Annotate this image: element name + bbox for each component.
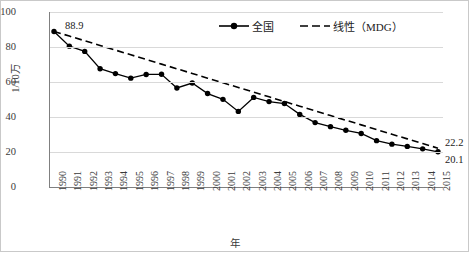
x-tick-label: 1992 (89, 171, 99, 191)
x-tick-label: 2013 (411, 171, 421, 191)
data-point-marker (343, 128, 348, 133)
gridline (49, 117, 443, 118)
data-point-marker (405, 144, 410, 149)
y-tick-label: 100 (0, 7, 16, 18)
data-point-marker (159, 72, 164, 77)
x-tick-label: 2012 (396, 171, 406, 191)
y-tick-label: 80 (0, 42, 16, 53)
x-tick-label: 2014 (427, 171, 437, 191)
x-tick-label: 2004 (273, 171, 283, 191)
x-tick-label: 2006 (304, 171, 314, 191)
data-point-marker (97, 66, 102, 71)
y-tick-label: 0 (0, 182, 16, 193)
dashed-line-icon (300, 21, 330, 31)
mdg-end-label: 22.2 (445, 138, 463, 149)
data-point-marker (374, 138, 379, 143)
y-tick-label: 40 (0, 112, 16, 123)
x-tick-label: 2003 (258, 171, 268, 191)
data-point-marker (389, 141, 394, 146)
data-point-marker (174, 85, 179, 90)
x-tick-label: 2002 (242, 171, 252, 191)
data-point-marker (266, 99, 271, 104)
data-point-marker (220, 97, 225, 102)
gridline (49, 82, 443, 83)
x-tick-label: 1993 (104, 171, 114, 191)
x-tick-label: 1994 (119, 171, 129, 191)
data-point-marker (328, 124, 333, 129)
x-tick-label: 2005 (288, 171, 298, 191)
x-tick-label: 2011 (381, 171, 391, 191)
x-tick-label: 1998 (181, 171, 191, 191)
start-value-label: 88.9 (65, 21, 83, 32)
data-point-marker (359, 131, 364, 136)
data-point-marker (82, 49, 87, 54)
plot-area (49, 12, 443, 187)
data-point-marker (128, 75, 133, 80)
x-tick-label: 2007 (319, 171, 329, 191)
x-tick-label: 2009 (350, 171, 360, 191)
x-tick-label: 2010 (365, 171, 375, 191)
legend-item-national[interactable]: 全国 (219, 18, 274, 34)
x-tick-label: 2000 (212, 171, 222, 191)
data-point-marker (143, 72, 148, 77)
x-tick-label: 1990 (58, 171, 68, 191)
solid-line-marker-icon (219, 21, 249, 31)
gridline (49, 12, 443, 13)
x-tick-label: 1996 (150, 171, 160, 191)
data-point-marker (420, 146, 425, 151)
chart-container: 1/10万 020406080100 199019911992199319941… (0, 0, 469, 252)
y-tick-label: 60 (0, 77, 16, 88)
x-tick-label: 1995 (135, 171, 145, 191)
x-tick-label: 1991 (73, 171, 83, 191)
mdg-trend-line (54, 31, 438, 148)
legend-label-national: 全国 (252, 18, 274, 34)
legend-label-mdg: 线性（MDG） (333, 18, 403, 34)
data-point-marker (282, 101, 287, 106)
x-tick-label: 2015 (442, 171, 452, 191)
x-axis-title: 年 (1, 235, 468, 250)
x-tick-label: 2008 (334, 171, 344, 191)
x-tick-label: 1999 (196, 171, 206, 191)
y-axis-line (49, 12, 50, 187)
gridline (49, 152, 443, 153)
x-tick-label: 2001 (227, 171, 237, 191)
data-point-marker (236, 109, 241, 114)
legend-item-mdg[interactable]: 线性（MDG） (300, 18, 403, 34)
national-end-label: 20.1 (445, 155, 463, 166)
data-series-svg (49, 12, 443, 187)
data-point-marker (251, 95, 256, 100)
gridline (49, 47, 443, 48)
data-point-marker (51, 29, 56, 34)
chart-legend: 全国 线性（MDG） (219, 18, 403, 34)
data-point-marker (312, 120, 317, 125)
x-tick-label: 1997 (166, 171, 176, 191)
data-point-marker (113, 71, 118, 76)
y-tick-label: 20 (0, 147, 16, 158)
data-point-marker (205, 91, 210, 96)
